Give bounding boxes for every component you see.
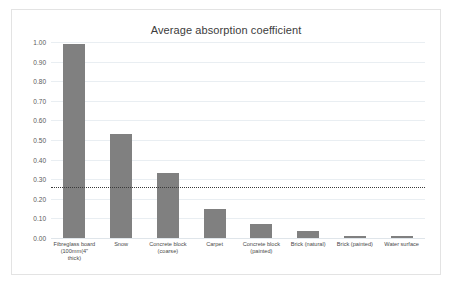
chart-title: Average absorption coefficient: [12, 24, 440, 36]
chart-container: Average absorption coefficient 1.000.900…: [11, 9, 441, 275]
bar: [297, 231, 319, 238]
bar-slot: [51, 42, 98, 238]
bar: [344, 236, 366, 238]
x-axis-category-label: Concrete block (coarse): [145, 241, 192, 263]
bar: [204, 209, 226, 238]
y-axis-tick-label: 0.50: [33, 137, 46, 144]
bar-slot: [145, 42, 192, 238]
x-axis-labels: Fibreglass board (100mm(4" thick)SnowCon…: [51, 241, 425, 263]
plot-area: 1.000.900.800.700.600.500.400.300.200.10…: [51, 42, 425, 238]
y-axis-tick-label: 1.00: [33, 39, 46, 46]
x-axis-category-label: Snow: [98, 241, 145, 263]
average-reference-line: [51, 187, 425, 188]
bar-slot: [98, 42, 145, 238]
x-axis-category-label: Brick (natural): [285, 241, 332, 263]
y-axis-tick-label: 0.00: [33, 235, 46, 242]
bar-series: [51, 42, 425, 238]
bar: [157, 173, 179, 238]
y-axis-tick-label: 0.20: [33, 195, 46, 202]
y-axis-tick-label: 0.10: [33, 215, 46, 222]
x-axis-category-label: Brick (painted): [332, 241, 379, 263]
bar-slot: [285, 42, 332, 238]
bar: [391, 236, 413, 238]
bar-slot: [332, 42, 379, 238]
x-axis-category-label: Carpet: [191, 241, 238, 263]
bar: [250, 224, 272, 238]
bar: [63, 44, 85, 238]
x-axis-category-label: Concrete block (painted): [238, 241, 285, 263]
bar-slot: [238, 42, 285, 238]
gridline: 0.00: [51, 238, 425, 239]
x-axis-category-label: Fibreglass board (100mm(4" thick): [51, 241, 98, 263]
y-axis-tick-label: 0.30: [33, 176, 46, 183]
bar-slot: [378, 42, 425, 238]
x-axis-category-label: Water surface: [378, 241, 425, 263]
y-axis-tick-label: 0.60: [33, 117, 46, 124]
bar-slot: [191, 42, 238, 238]
y-axis-tick-label: 0.80: [33, 78, 46, 85]
y-axis-tick-label: 0.40: [33, 156, 46, 163]
y-axis-tick-label: 0.70: [33, 97, 46, 104]
y-axis-tick-label: 0.90: [33, 58, 46, 65]
